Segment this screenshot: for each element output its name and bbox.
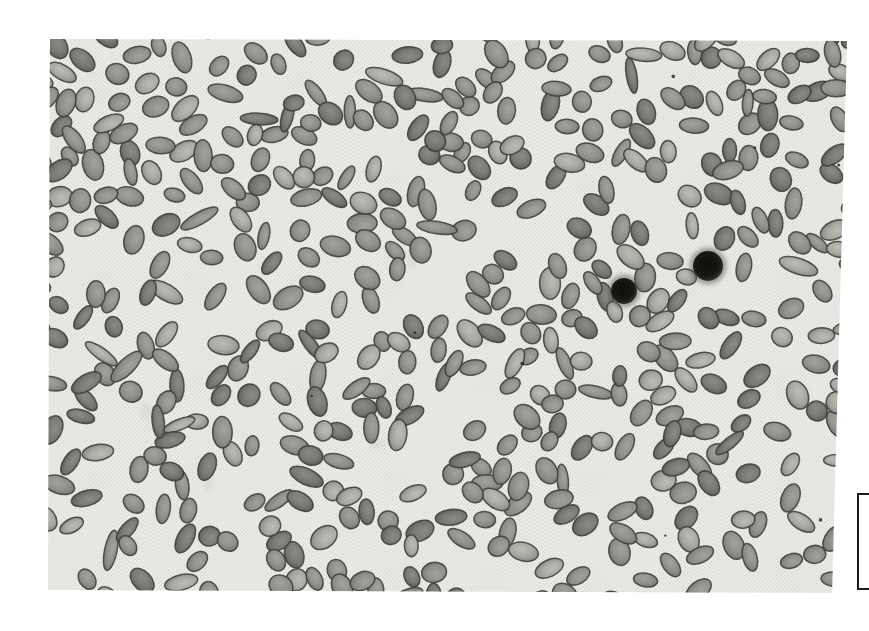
- blood-smear-canvas: [48, 39, 847, 593]
- scale-bracket: [857, 493, 869, 590]
- blood-smear-micrograph: [48, 39, 847, 593]
- page: [0, 0, 869, 631]
